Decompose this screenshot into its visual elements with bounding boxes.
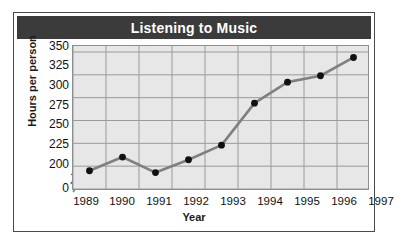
data-point [251, 100, 258, 107]
line-chart-canvas [73, 46, 369, 190]
chart-figure: Listening to Music Hours per person Year… [13, 12, 375, 232]
data-point [119, 154, 126, 161]
data-point [284, 79, 291, 86]
data-point [218, 142, 225, 149]
data-point [86, 167, 93, 174]
data-point [185, 156, 192, 163]
plot-area [72, 45, 369, 190]
x-tick-1997: 1997 [358, 195, 398, 207]
data-point [350, 54, 357, 61]
data-point [152, 169, 159, 176]
gridlines [73, 46, 369, 190]
data-point [317, 72, 324, 79]
